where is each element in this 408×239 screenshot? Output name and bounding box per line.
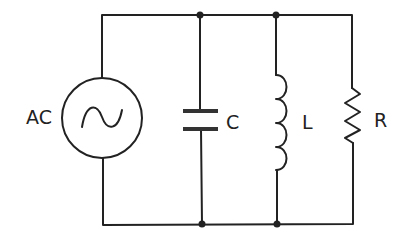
resistor-label: R	[374, 111, 387, 130]
inductor-label: L	[302, 113, 313, 132]
capacitor-label: C	[226, 113, 239, 132]
junction-dot	[199, 221, 206, 228]
circuit-drawing	[0, 0, 408, 239]
sine-wave-icon	[82, 108, 122, 127]
junction-dot	[197, 12, 204, 19]
inductor-coil	[276, 75, 287, 170]
resistor-zigzag	[345, 88, 360, 143]
capacitor-plate-bottom	[183, 127, 218, 131]
ac-source-label: AC	[26, 108, 52, 127]
junction-dot	[274, 221, 281, 228]
capacitor-lead-bottom	[201, 129, 202, 224]
capacitor-plate-top	[183, 109, 218, 113]
bottom-wire	[103, 143, 353, 225]
circuit-diagram: AC C L R	[0, 0, 408, 239]
top-wire	[102, 15, 352, 88]
junction-dot	[273, 12, 280, 19]
